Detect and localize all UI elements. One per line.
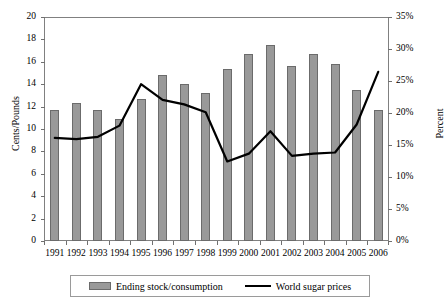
bar-swatch-icon — [89, 282, 111, 290]
legend-item-ending-stock-consumption: Ending stock/consumption — [89, 281, 223, 292]
x-axis-tick-mark — [260, 241, 261, 245]
y-left-tick-label: 4 — [2, 191, 36, 201]
y-axis-right-title: Percent — [434, 79, 445, 169]
line-series-world-sugar-prices — [44, 17, 389, 241]
line-swatch-icon — [245, 285, 271, 287]
x-axis-tick-mark — [238, 241, 239, 245]
x-axis-label-2005: 2005 — [346, 248, 368, 258]
y-right-tick-label: 15% — [396, 140, 432, 150]
x-axis-tick-mark — [367, 241, 368, 245]
x-axis-tick-mark — [44, 241, 45, 245]
y-left-tick-label: 16 — [2, 57, 36, 67]
x-axis-label-1995: 1995 — [130, 248, 152, 258]
x-axis-tick-mark — [346, 241, 347, 245]
x-axis-tick-mark — [217, 241, 218, 245]
x-axis-label-1994: 1994 — [109, 248, 131, 258]
x-axis-label-1999: 1999 — [217, 248, 239, 258]
legend-label-ending-stock-consumption: Ending stock/consumption — [116, 281, 223, 292]
x-axis-tick-mark — [130, 241, 131, 245]
chart-legend: Ending stock/consumption World sugar pri… — [70, 275, 370, 297]
x-axis-tick-mark — [195, 241, 196, 245]
y-left-tick-label: 8 — [2, 146, 36, 156]
legend-item-world-sugar-prices: World sugar prices — [245, 281, 351, 292]
y-left-tick-label: 18 — [2, 34, 36, 44]
x-axis-tick-mark — [281, 241, 282, 245]
x-axis-tick-mark — [152, 241, 153, 245]
x-axis-tick-mark — [303, 241, 304, 245]
y-right-tick-label: 5% — [396, 204, 432, 214]
x-axis-label-1993: 1993 — [87, 248, 109, 258]
x-axis-label-1991: 1991 — [44, 248, 66, 258]
y-right-tick-label: 30% — [396, 44, 432, 54]
x-axis-tick-mark — [388, 241, 389, 245]
y-right-tick-label: 10% — [396, 172, 432, 182]
y-left-tick-label: 12 — [2, 102, 36, 112]
y-left-tick-label: 10 — [2, 124, 36, 134]
x-axis-tick-mark — [87, 241, 88, 245]
world-sugar-prices-polyline — [55, 72, 378, 162]
y-left-tick-label: 0 — [2, 236, 36, 246]
legend-label-world-sugar-prices: World sugar prices — [276, 281, 351, 292]
x-axis-label-1997: 1997 — [173, 248, 195, 258]
y-left-tick-label: 14 — [2, 79, 36, 89]
x-axis-label-1996: 1996 — [152, 248, 174, 258]
y-left-tick-label: 2 — [2, 214, 36, 224]
x-axis-label-2001: 2001 — [260, 248, 282, 258]
x-axis-label-1992: 1992 — [66, 248, 88, 258]
x-axis-tick-mark — [173, 241, 174, 245]
y-right-tick-label: 20% — [396, 108, 432, 118]
y-left-tick-label: 20 — [2, 12, 36, 22]
x-axis-tick-mark — [324, 241, 325, 245]
y-left-tick-label: 6 — [2, 169, 36, 179]
y-right-tick-label: 0% — [396, 236, 432, 246]
x-axis-tick-mark — [109, 241, 110, 245]
y-right-tick-label: 35% — [396, 12, 432, 22]
x-axis-label-2000: 2000 — [238, 248, 260, 258]
x-axis-label-2003: 2003 — [303, 248, 325, 258]
x-axis-tick-mark — [66, 241, 67, 245]
x-axis-label-1998: 1998 — [195, 248, 217, 258]
x-axis-label-2004: 2004 — [324, 248, 346, 258]
x-axis-label-2002: 2002 — [281, 248, 303, 258]
x-axis-label-2006: 2006 — [367, 248, 389, 258]
y-right-tick-label: 25% — [396, 76, 432, 86]
